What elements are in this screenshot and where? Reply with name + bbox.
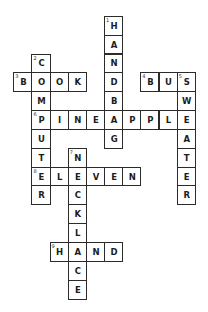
- crossword-cell: K: [68, 204, 87, 224]
- cell-letter: A: [105, 115, 122, 124]
- cell-letter: C: [69, 191, 86, 200]
- crossword-cell: A: [177, 129, 196, 149]
- crossword-cell: E: [177, 167, 196, 187]
- crossword-cell: P: [140, 110, 159, 130]
- cell-letter: A: [69, 247, 86, 256]
- crossword-cell: M: [31, 91, 50, 111]
- cell-letter: V: [87, 172, 104, 181]
- cell-letter: P: [141, 115, 158, 124]
- cell-letter: B: [14, 78, 31, 87]
- cell-letter: M: [32, 97, 49, 106]
- cell-letter: S: [178, 78, 195, 87]
- crossword-cell: D: [104, 72, 123, 92]
- cell-letter: U: [32, 134, 49, 143]
- crossword-cell: L: [50, 167, 69, 187]
- cell-letter: K: [69, 78, 86, 87]
- crossword-cell: N: [86, 242, 105, 262]
- crossword-cell: A: [68, 242, 87, 262]
- crossword-cell: N: [68, 110, 87, 130]
- cell-letter: N: [87, 247, 104, 256]
- cell-letter: L: [160, 115, 177, 124]
- crossword-cell: 6P: [31, 110, 50, 130]
- cell-letter: C: [69, 266, 86, 275]
- crossword-cell: E: [86, 110, 105, 130]
- crossword-grid: 1HANDBAG2COM6PUT8ER3BOK4BU5SWEATERINEPPL…: [0, 0, 208, 312]
- crossword-cell: 3B: [13, 72, 32, 92]
- cell-letter: O: [51, 78, 68, 87]
- crossword-cell: A: [104, 110, 123, 130]
- cell-letter: E: [69, 172, 86, 181]
- crossword-cell: 5S: [177, 72, 196, 92]
- cell-letter: E: [178, 172, 195, 181]
- cell-letter: R: [32, 191, 49, 200]
- cell-letter: H: [51, 247, 68, 256]
- crossword-cell: A: [104, 35, 123, 55]
- crossword-cell: 9H: [50, 242, 69, 262]
- cell-letter: G: [105, 134, 122, 143]
- crossword-cell: R: [31, 185, 50, 205]
- cell-letter: R: [178, 191, 195, 200]
- cell-letter: N: [69, 153, 86, 162]
- cell-letter: K: [69, 210, 86, 219]
- crossword-cell: D: [104, 242, 123, 262]
- crossword-cell: C: [68, 185, 87, 205]
- crossword-cell: 4B: [140, 72, 159, 92]
- cell-letter: T: [32, 153, 49, 162]
- crossword-cell: N: [122, 167, 141, 187]
- cell-letter: E: [69, 285, 86, 294]
- cell-letter: E: [178, 115, 195, 124]
- cell-letter: N: [69, 115, 86, 124]
- crossword-cell: N: [104, 54, 123, 74]
- crossword-cell: K: [68, 72, 87, 92]
- cell-letter: D: [105, 247, 122, 256]
- cell-letter: N: [105, 59, 122, 68]
- crossword-cell: W: [177, 91, 196, 111]
- cell-letter: A: [105, 40, 122, 49]
- cell-letter: H: [105, 21, 122, 30]
- cell-letter: P: [123, 115, 140, 124]
- crossword-cell: L: [159, 110, 178, 130]
- cell-letter: L: [51, 172, 68, 181]
- cell-letter: E: [105, 172, 122, 181]
- cell-letter: N: [123, 172, 140, 181]
- crossword-cell: E: [177, 110, 196, 130]
- crossword-cell: L: [68, 223, 87, 243]
- crossword-cell: R: [177, 185, 196, 205]
- crossword-cell: B: [104, 91, 123, 111]
- crossword-cell: E: [104, 167, 123, 187]
- crossword-cell: E: [68, 167, 87, 187]
- crossword-cell: C: [68, 261, 87, 281]
- cell-letter: L: [69, 229, 86, 238]
- crossword-cell: E: [68, 280, 87, 300]
- cell-letter: P: [32, 115, 49, 124]
- cell-letter: W: [178, 97, 195, 106]
- cell-letter: A: [178, 134, 195, 143]
- crossword-cell: 2C: [31, 54, 50, 74]
- crossword-cell: I: [50, 110, 69, 130]
- cell-letter: E: [32, 172, 49, 181]
- crossword-cell: U: [159, 72, 178, 92]
- cell-letter: B: [141, 78, 158, 87]
- cell-letter: C: [32, 59, 49, 68]
- cell-letter: O: [32, 78, 49, 87]
- crossword-cell: O: [50, 72, 69, 92]
- cell-letter: T: [178, 153, 195, 162]
- crossword-cell: V: [86, 167, 105, 187]
- crossword-cell: T: [31, 148, 50, 168]
- crossword-cell: G: [104, 129, 123, 149]
- cell-letter: B: [105, 97, 122, 106]
- crossword-cell: T: [177, 148, 196, 168]
- crossword-cell: O: [31, 72, 50, 92]
- cell-letter: U: [160, 78, 177, 87]
- cell-letter: I: [51, 115, 68, 124]
- cell-letter: E: [87, 115, 104, 124]
- crossword-cell: P: [122, 110, 141, 130]
- crossword-cell: 7N: [68, 148, 87, 168]
- cell-letter: D: [105, 78, 122, 87]
- crossword-cell: 8E: [31, 167, 50, 187]
- crossword-cell: U: [31, 129, 50, 149]
- crossword-cell: 1H: [104, 16, 123, 36]
